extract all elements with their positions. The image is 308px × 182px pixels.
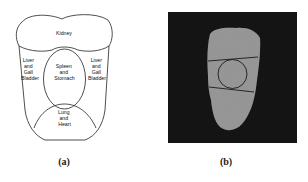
- tongue-map-diagram: Kidney Liver and Gall Bladder Spleen and…: [0, 0, 154, 182]
- tongue-segmented-image: [154, 0, 308, 182]
- caption-b: (b): [206, 156, 246, 167]
- label-lung-heart: Lung and Heart: [58, 109, 71, 127]
- caption-a: (a): [44, 156, 84, 167]
- tongue-photo-panel: (b): [154, 0, 308, 182]
- tongue-map-diagram-panel: Kidney Liver and Gall Bladder Spleen and…: [0, 0, 154, 182]
- label-kidney: Kidney: [56, 30, 72, 36]
